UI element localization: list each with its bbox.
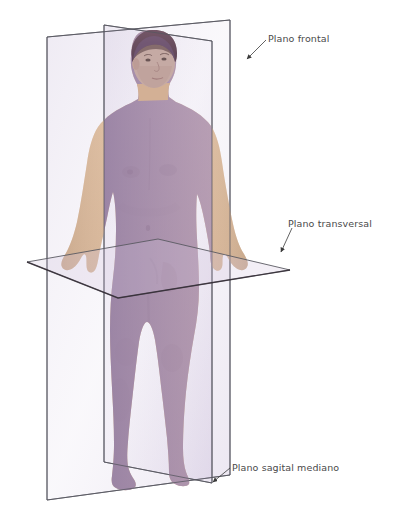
anatomical-planes-scene	[0, 0, 398, 529]
label-plano-sagital-mediano: Plano sagital mediano	[232, 462, 339, 474]
label-plano-transversal: Plano transversal	[288, 218, 372, 230]
figure-canvas: Plano frontal Plano transversal Plano sa…	[0, 0, 398, 529]
leader-transversal	[281, 228, 292, 252]
leader-frontal	[247, 40, 266, 59]
label-plano-frontal: Plano frontal	[268, 33, 329, 45]
